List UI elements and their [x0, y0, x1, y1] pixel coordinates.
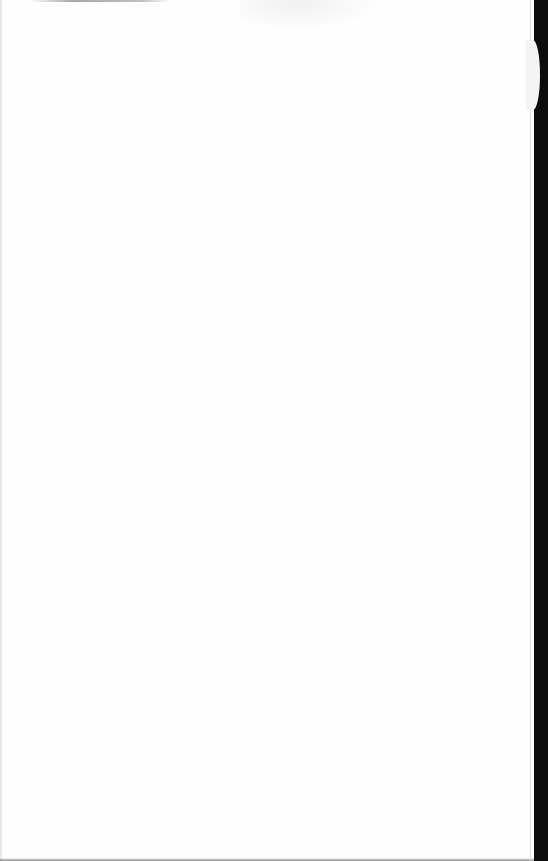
blank-page: [0, 0, 536, 861]
top-edge-shadow: [30, 0, 170, 2]
left-edge-shadow: [0, 0, 3, 861]
scanned-document: [0, 0, 548, 861]
page-fold-line: [530, 0, 531, 861]
scanner-background-strip: [534, 0, 548, 861]
top-smudge: [240, 0, 380, 30]
page-edge-bulge: [526, 40, 540, 110]
